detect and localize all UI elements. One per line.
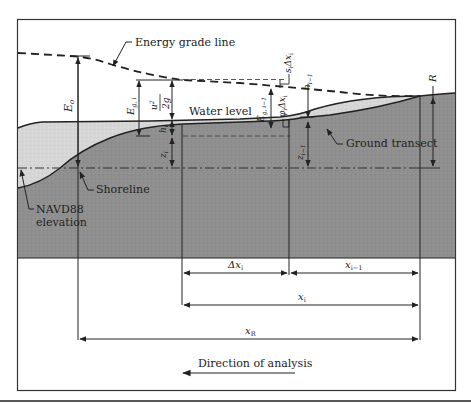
navd88-label-line2: elevation	[36, 216, 87, 229]
slope-dx-label: siΔxi	[283, 53, 294, 73]
phi-dx-label: φiΔxi	[277, 95, 288, 117]
water-level-label: Water level	[189, 105, 252, 118]
r-label: R	[427, 74, 438, 83]
hydraulic-profile-diagram: Eo Eg, i u2 2g hi zi Eg, i−1 φiΔxi siΔxi…	[0, 0, 471, 404]
direction-of-analysis-label: Direction of analysis	[198, 357, 313, 370]
navd88-label-line1: NAVD88	[36, 203, 84, 216]
energy-grade-line-label: Energy grade line	[135, 36, 235, 49]
shoreline-label: Shoreline	[96, 183, 150, 196]
svg-text:2g: 2g	[161, 97, 171, 110]
ground-transect-label: Ground transect	[346, 137, 438, 150]
